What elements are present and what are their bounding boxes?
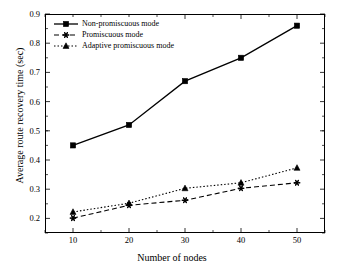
x-axis-title: Number of nodes [0,252,344,263]
legend-item: Promiscuous mode [53,30,174,40]
x-tick-label: 40 [229,236,253,245]
legend-item-label: Adaptive promiscuous mode [82,42,174,50]
chart-legend: Non-promiscuous modePromiscuous modeAdap… [51,17,178,54]
x-tick-label: 50 [285,236,309,245]
legend-sample-square-icon [53,19,79,29]
legend-item: Adaptive promiscuous mode [53,41,174,51]
legend-item-label: Non-promiscuous mode [82,20,159,28]
y-axis-title: Average route recovery time (sec) [14,11,25,221]
legend-item-label: Promiscuous mode [82,31,143,39]
series-2 [70,165,300,215]
legend-item: Non-promiscuous mode [53,19,174,29]
chart-figure: 0.90.80.70.60.50.40.30.2 1020304050 Numb… [0,0,344,273]
legend-sample-star-icon [53,30,79,40]
legend-sample-triangle-icon [53,41,79,51]
x-tick-label: 10 [61,236,85,245]
x-tick-label: 30 [173,236,197,245]
x-tick-label: 20 [117,236,141,245]
